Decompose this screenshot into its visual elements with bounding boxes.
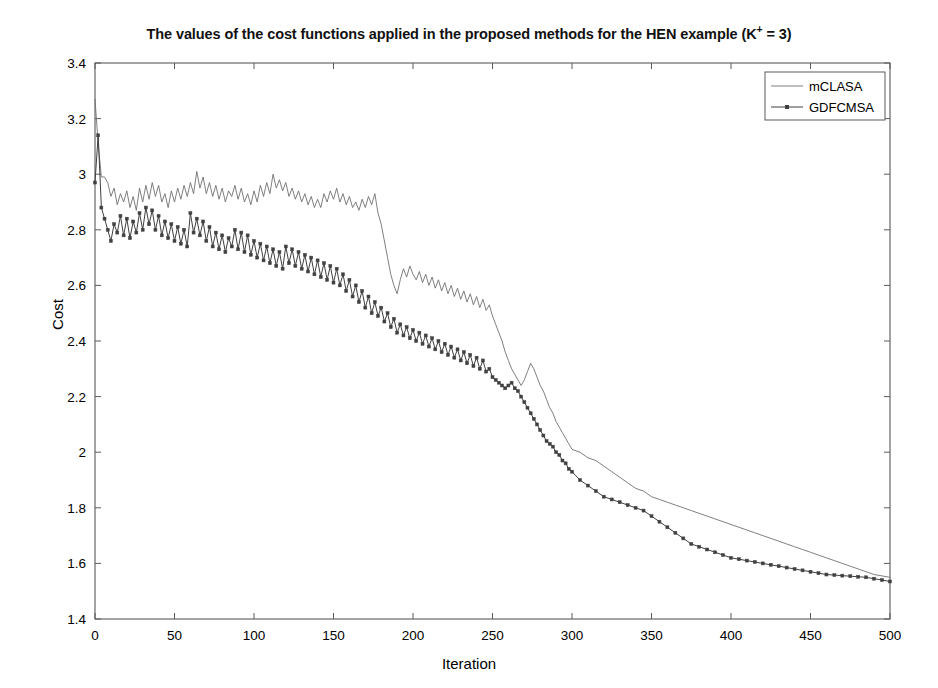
data-marker: [373, 301, 376, 304]
data-marker: [125, 217, 128, 220]
y-axis-label: Cost: [49, 255, 66, 375]
data-marker: [300, 267, 303, 270]
data-marker: [462, 351, 465, 354]
data-marker: [176, 226, 179, 229]
data-marker: [889, 580, 892, 583]
data-marker: [329, 264, 332, 267]
data-marker: [777, 565, 780, 568]
data-marker: [144, 206, 147, 209]
data-marker: [466, 362, 469, 365]
data-marker: [722, 554, 725, 557]
data-marker: [745, 559, 748, 562]
data-marker: [526, 406, 529, 409]
data-marker: [383, 320, 386, 323]
data-marker: [361, 289, 364, 292]
data-marker: [666, 526, 669, 529]
data-marker: [825, 573, 828, 576]
data-marker: [345, 289, 348, 292]
data-marker: [642, 509, 645, 512]
data-marker: [437, 340, 440, 343]
data-marker: [294, 264, 297, 267]
data-marker: [357, 301, 360, 304]
data-marker: [237, 248, 240, 251]
data-marker: [338, 284, 341, 287]
data-marker: [478, 367, 481, 370]
data-marker: [268, 262, 271, 265]
data-marker: [214, 231, 217, 234]
data-marker: [737, 558, 740, 561]
data-marker: [513, 387, 516, 390]
data-marker: [529, 412, 532, 415]
data-marker: [154, 228, 157, 231]
data-marker: [542, 434, 545, 437]
y-tick-label: 3.4: [67, 56, 86, 71]
figure-container: The values of the cost functions applied…: [0, 0, 938, 688]
data-marker: [714, 551, 717, 554]
data-marker: [342, 273, 345, 276]
data-marker: [192, 231, 195, 234]
x-tick-label: 250: [481, 628, 504, 643]
data-marker: [682, 537, 685, 540]
data-marker: [386, 312, 389, 315]
data-marker: [322, 262, 325, 265]
data-marker: [841, 574, 844, 577]
data-marker: [335, 267, 338, 270]
data-marker: [119, 214, 122, 217]
y-tick-label: 3: [78, 167, 86, 182]
data-marker: [272, 248, 275, 251]
data-marker: [516, 390, 519, 393]
data-marker: [205, 239, 208, 242]
data-marker: [539, 428, 542, 431]
data-marker: [157, 214, 160, 217]
data-marker: [650, 515, 653, 518]
data-marker: [281, 267, 284, 270]
data-marker: [690, 542, 693, 545]
data-marker: [173, 239, 176, 242]
data-marker: [367, 295, 370, 298]
data-marker: [218, 248, 221, 251]
data-marker: [94, 181, 97, 184]
data-marker: [249, 253, 252, 256]
data-marker: [504, 387, 507, 390]
data-marker: [163, 220, 166, 223]
data-marker: [297, 251, 300, 254]
y-tick-label: 2.6: [67, 278, 86, 293]
data-marker: [567, 467, 570, 470]
data-marker: [179, 242, 182, 245]
data-marker: [793, 567, 796, 570]
x-tick-label: 400: [720, 628, 743, 643]
data-marker: [501, 384, 504, 387]
data-marker: [440, 351, 443, 354]
data-marker: [415, 340, 418, 343]
data-marker: [370, 312, 373, 315]
data-marker: [186, 245, 189, 248]
data-marker: [418, 331, 421, 334]
data-marker: [265, 245, 268, 248]
data-marker: [122, 234, 125, 237]
data-marker: [135, 231, 138, 234]
data-marker: [558, 453, 561, 456]
data-marker: [170, 223, 173, 226]
data-marker: [881, 579, 884, 582]
data-marker: [873, 577, 876, 580]
data-marker: [303, 253, 306, 256]
data-marker: [706, 548, 709, 551]
legend-label: mCLASA: [809, 79, 863, 94]
data-marker: [253, 239, 256, 242]
data-marker: [141, 228, 144, 231]
data-marker: [817, 572, 820, 575]
data-marker: [109, 239, 112, 242]
data-marker: [148, 223, 151, 226]
data-marker: [555, 451, 558, 454]
data-marker: [424, 334, 427, 337]
data-marker: [551, 445, 554, 448]
data-marker: [316, 259, 319, 262]
data-marker: [319, 276, 322, 279]
y-tick-label: 1.6: [67, 556, 86, 571]
data-marker: [658, 520, 661, 523]
data-marker: [520, 395, 523, 398]
data-marker: [389, 326, 392, 329]
data-marker: [230, 245, 233, 248]
data-marker: [364, 306, 367, 309]
data-marker: [291, 248, 294, 251]
